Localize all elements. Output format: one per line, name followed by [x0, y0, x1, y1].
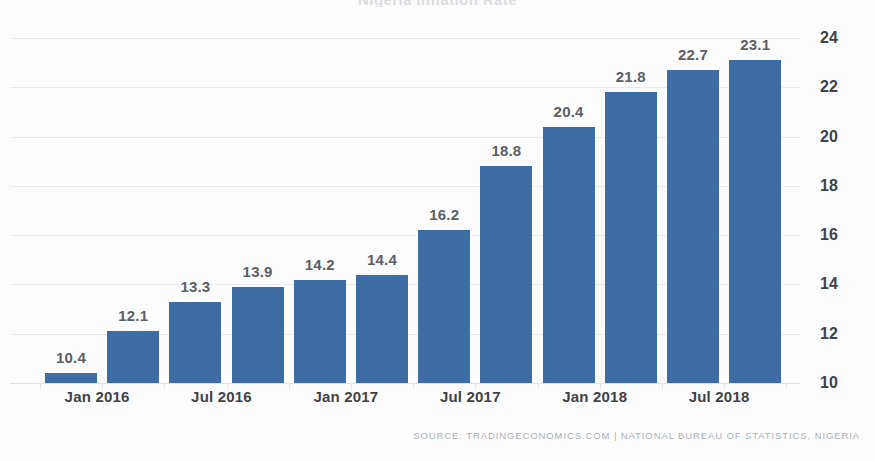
bar-value-label: 13.3: [160, 278, 230, 295]
x-axis-label: Jan 2018: [540, 388, 650, 405]
bar[interactable]: [356, 275, 408, 383]
bar-value-label: 13.9: [223, 263, 293, 280]
x-axis: Jan 2016Jul 2016Jan 2017Jul 2017Jan 2018…: [10, 388, 800, 412]
x-axis-label: Jul 2017: [415, 388, 525, 405]
y-axis-label: 24: [820, 29, 856, 47]
bar-value-label: 12.1: [98, 307, 168, 324]
x-axis-label: Jan 2016: [42, 388, 152, 405]
bar-value-label: 16.2: [409, 206, 479, 223]
bar[interactable]: [667, 70, 719, 383]
bar[interactable]: [605, 92, 657, 383]
chart-figure: Nigeria Inflation Rate 10.412.113.313.91…: [0, 0, 875, 461]
bar[interactable]: [480, 166, 532, 383]
bar[interactable]: [729, 60, 781, 383]
y-axis-label: 10: [820, 374, 856, 392]
gridline: [10, 383, 800, 384]
y-axis-label: 16: [820, 226, 856, 244]
bar[interactable]: [294, 280, 346, 384]
bar-value-label: 10.4: [36, 349, 106, 366]
gridline: [10, 38, 800, 39]
y-axis-label: 22: [820, 78, 856, 96]
bar-value-label: 14.2: [285, 256, 355, 273]
y-axis-label: 20: [820, 128, 856, 146]
chart-title: Nigeria Inflation Rate: [0, 0, 875, 7]
plot-area: 10.412.113.313.914.214.416.218.820.421.8…: [10, 38, 800, 383]
source-note: SOURCE: TRADINGECONOMICS.COM | NATIONAL …: [0, 430, 860, 441]
bar-value-label: 18.8: [471, 142, 541, 159]
bar-value-label: 23.1: [720, 36, 790, 53]
bar[interactable]: [543, 127, 595, 383]
x-axis-label: Jul 2018: [664, 388, 774, 405]
bar-value-label: 20.4: [534, 103, 604, 120]
bar[interactable]: [107, 331, 159, 383]
y-axis-label: 18: [820, 177, 856, 195]
bar[interactable]: [45, 373, 97, 383]
bar-value-label: 14.4: [347, 251, 417, 268]
bar[interactable]: [232, 287, 284, 383]
x-axis-label: Jan 2017: [291, 388, 401, 405]
bar[interactable]: [418, 230, 470, 383]
y-axis-label: 14: [820, 275, 856, 293]
y-axis-label: 12: [820, 325, 856, 343]
x-axis-label: Jul 2016: [167, 388, 277, 405]
y-axis: 1012141618202224: [820, 38, 870, 383]
bar-value-label: 21.8: [596, 68, 666, 85]
bar[interactable]: [169, 302, 221, 383]
bar-value-label: 22.7: [658, 46, 728, 63]
